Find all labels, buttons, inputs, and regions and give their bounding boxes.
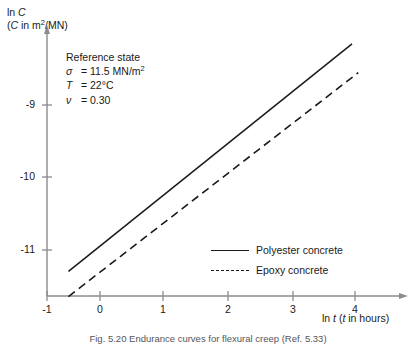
legend-item-polyester-concrete: Polyester concrete — [211, 240, 343, 260]
annotation-title: Reference state — [66, 50, 145, 64]
x-axis-arrow — [399, 293, 408, 299]
reference-state-annotation: Reference state σ=11.5 MN/m2 T=22°C ν=0.… — [66, 50, 145, 107]
y-axis-label-variable: C — [18, 6, 26, 18]
figure-caption: Fig. 5.20 Endurance curves for flexural … — [0, 333, 416, 344]
x-axis-label-prefix: ln — [322, 312, 333, 324]
annotation-symbol-nu: ν — [66, 93, 78, 107]
y-axis-units-tail: /MN) — [45, 19, 68, 31]
annotation-equals-0: = — [78, 64, 90, 78]
legend-label-epoxy-concrete: Epoxy concrete — [256, 264, 328, 276]
legend: Polyester concrete Epoxy concrete — [211, 240, 343, 280]
y-axis-units-rest: in m — [18, 19, 41, 31]
y-tick-label--11: -11 — [2, 243, 35, 255]
x-tick-label-3: 3 — [273, 303, 313, 315]
legend-dashed-line-icon — [211, 265, 249, 275]
annotation-symbol-temperature: T — [66, 78, 78, 92]
x-tick-label-0: 0 — [80, 303, 120, 315]
x-tick-label-2: 2 — [208, 303, 248, 315]
figure-container: ln C (C in m2/MN) ln t (t in hours) Refe… — [0, 0, 416, 344]
plot-area — [0, 0, 416, 344]
annotation-row-stress: σ=11.5 MN/m2 — [66, 64, 145, 78]
legend-item-epoxy-concrete: Epoxy concrete — [211, 260, 343, 280]
y-axis-units-variable: C — [11, 19, 19, 31]
annotation-row-temperature: T=22°C — [66, 78, 145, 92]
annotation-symbol-sigma: σ — [66, 64, 78, 78]
x-tick-label--1: -1 — [27, 303, 67, 315]
annotation-value-stress: 11.5 MN/m — [90, 65, 141, 77]
annotation-value-temperature: 22°C — [90, 79, 113, 91]
y-axis-label-prefix: ln — [7, 6, 18, 18]
y-tick-label--10: -10 — [2, 170, 35, 182]
annotation-row-poisson: ν=0.30 — [66, 93, 145, 107]
y-tick-label--9: -9 — [2, 98, 35, 110]
legend-solid-line-icon — [211, 245, 249, 255]
x-tick-label-4: 4 — [335, 303, 375, 315]
annotation-equals-1: = — [78, 78, 90, 92]
y-axis-label: ln C (C in m2/MN) — [7, 6, 68, 32]
x-tick-label-1: 1 — [143, 303, 183, 315]
annotation-value-poisson: 0.30 — [90, 94, 110, 106]
annotation-exponent-stress: 2 — [141, 64, 145, 73]
legend-label-polyester-concrete: Polyester concrete — [256, 244, 343, 256]
annotation-equals-2: = — [78, 93, 90, 107]
